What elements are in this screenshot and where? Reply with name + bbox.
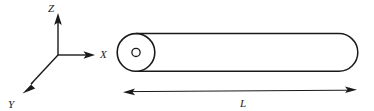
coordinate-axes: Z X Y [8,2,108,110]
length-dimension-line [131,90,350,91]
cylinder-right-cap [339,34,358,72]
cylinder-rod [117,34,358,72]
diagram-svg: Z X Y [0,0,374,111]
y-axis-label: Y [8,98,16,110]
figure-canvas: Z X Y [0,0,374,111]
z-axis: Z [48,2,62,55]
length-dimension: L [123,87,357,110]
y-axis-arrowhead [23,81,36,93]
length-dimension-label: L [239,97,246,109]
y-axis: Y [8,55,58,110]
cylinder-axis-hub-circle [132,48,140,56]
x-axis-label: X [99,48,108,60]
z-axis-label: Z [48,2,55,14]
y-axis-line [31,55,58,84]
x-axis: X [58,48,108,60]
